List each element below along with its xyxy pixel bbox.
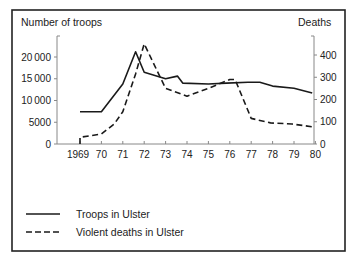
x-tick-label: 1969 — [67, 149, 90, 160]
x-tick-label: 79 — [288, 149, 300, 160]
right-y-tick-label: 0 — [320, 139, 326, 150]
x-tick-label: 71 — [117, 149, 129, 160]
legend-label-deaths: Violent deaths in Ulster — [76, 226, 184, 238]
x-tick-label: 74 — [181, 149, 193, 160]
chart-border — [12, 10, 345, 251]
x-tick-label: 73 — [160, 149, 172, 160]
right-y-tick-label: 400 — [320, 50, 337, 61]
x-tick-label: 70 — [96, 149, 108, 160]
x-tick-label: 80 — [310, 149, 322, 160]
left-y-tick-label: 5000 — [29, 117, 52, 128]
left-axis-title: Number of troops — [21, 16, 102, 28]
x-tick-label: 78 — [267, 149, 279, 160]
legend-label-troops: Troops in Ulster — [76, 208, 150, 220]
x-tick-label: 75 — [203, 149, 215, 160]
right-y-tick-label: 200 — [320, 94, 337, 105]
left-y-tick-label: 20 000 — [21, 52, 51, 63]
left-y-tick-label: 15 000 — [21, 73, 51, 84]
right-y-tick-label: 300 — [320, 72, 337, 83]
x-tick-label: 76 — [224, 149, 236, 160]
right-y-tick-label: 100 — [320, 116, 337, 127]
x-tick-label: 77 — [246, 149, 258, 160]
left-y-tick-label: 10 000 — [21, 95, 51, 106]
chart-figure: Number of troops Deaths 0500010 00015 00… — [0, 0, 354, 258]
right-axis-title: Deaths — [298, 16, 331, 28]
left-y-tick-label: 0 — [45, 139, 51, 150]
x-tick-label: 72 — [139, 149, 151, 160]
